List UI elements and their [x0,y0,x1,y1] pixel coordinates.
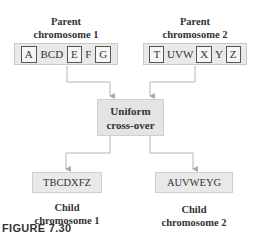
child-1-sequence: TBCDXFZ [43,177,91,188]
gene: X [196,46,212,63]
parent-2-title: Parent chromosome 2 [143,15,247,41]
gene: T [149,46,164,63]
uniform-crossover-box: Uniform cross-over [97,99,164,136]
gene: Z [226,46,241,63]
parent-1-title: Parent chromosome 1 [14,15,118,41]
parent-1-title-line2: chromosome 1 [14,28,118,41]
figure-caption: FIGURE 7.30 [2,222,71,234]
child-1-title-line1: Child [22,201,112,214]
gene: UVW [167,47,193,61]
parent-2-title-line1: Parent [143,15,247,28]
parent-2-title-line2: chromosome 2 [143,28,247,41]
gene: F [85,47,91,61]
gene: Y [215,47,223,61]
gene: A [21,46,37,63]
parent-chromosome-2: T UVW X Y Z [143,43,247,65]
child-2-title-line1: Child [148,203,240,216]
gene: BCD [41,47,64,61]
operator-line1: Uniform [98,104,163,118]
gene: G [95,46,111,63]
parent-chromosome-1: A BCD E F G [14,43,118,65]
child-2-title-line2: chromosome 2 [148,216,240,229]
child-chromosome-1: TBCDXFZ [32,172,102,193]
child-chromosome-2: AUVWEYG [155,172,233,193]
parent-1-title-line1: Parent [14,15,118,28]
operator-line2: cross-over [98,118,163,132]
gene: E [67,46,82,63]
child-2-title: Child chromosome 2 [148,203,240,229]
child-2-sequence: AUVWEYG [167,177,221,188]
